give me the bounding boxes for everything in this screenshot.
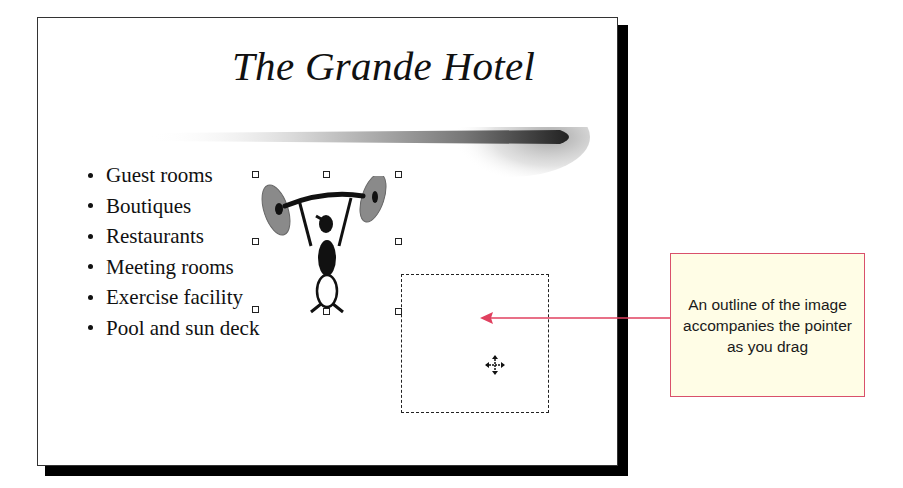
resize-handle-top-left[interactable] — [252, 171, 259, 178]
bullet-item: Restaurants — [88, 221, 259, 252]
bullet-dot-icon — [88, 234, 93, 239]
bullet-item: Guest rooms — [88, 160, 259, 191]
resize-handle-bottom-left[interactable] — [252, 306, 259, 313]
move-cursor-icon — [484, 354, 506, 376]
bullet-dot-icon — [88, 264, 93, 269]
resize-handle-top-right[interactable] — [395, 171, 402, 178]
bullet-item: Meeting rooms — [88, 252, 259, 283]
slide-title[interactable]: The Grande Hotel — [232, 42, 535, 90]
bullet-item: Exercise facility — [88, 282, 259, 313]
callout-arrow-icon — [478, 311, 672, 325]
bullet-list[interactable]: Guest rooms Boutiques Restaurants Meetin… — [88, 160, 259, 343]
bullet-dot-icon — [88, 325, 93, 330]
resize-handle-middle-right[interactable] — [395, 238, 402, 245]
bullet-item: Boutiques — [88, 191, 259, 222]
bullet-dot-icon — [88, 173, 93, 178]
callout-text: An outline of the image accompanies the … — [679, 294, 856, 357]
resize-handle-bottom-center[interactable] — [323, 308, 330, 315]
callout-box: An outline of the image accompanies the … — [670, 253, 865, 397]
resize-handle-middle-left[interactable] — [252, 238, 259, 245]
resize-handle-top-center[interactable] — [323, 171, 330, 178]
bullet-item: Pool and sun deck — [88, 313, 259, 344]
weightlifter-clipart-icon[interactable] — [255, 176, 395, 316]
bullet-dot-icon — [88, 203, 93, 208]
bullet-dot-icon — [88, 295, 93, 300]
drag-outline — [401, 274, 549, 413]
